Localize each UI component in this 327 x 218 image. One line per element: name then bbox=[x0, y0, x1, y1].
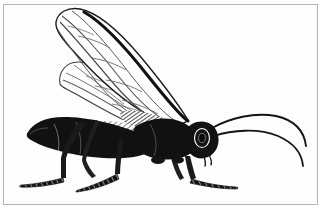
hind-tibia bbox=[61, 158, 66, 178]
coxa-mid bbox=[151, 156, 165, 164]
coxa-fore bbox=[172, 157, 184, 164]
illustration-page: Insect, lateral view facing right Forewi… bbox=[0, 0, 327, 218]
insect-illustration bbox=[0, 0, 327, 218]
eye-inner-ring bbox=[199, 133, 206, 142]
